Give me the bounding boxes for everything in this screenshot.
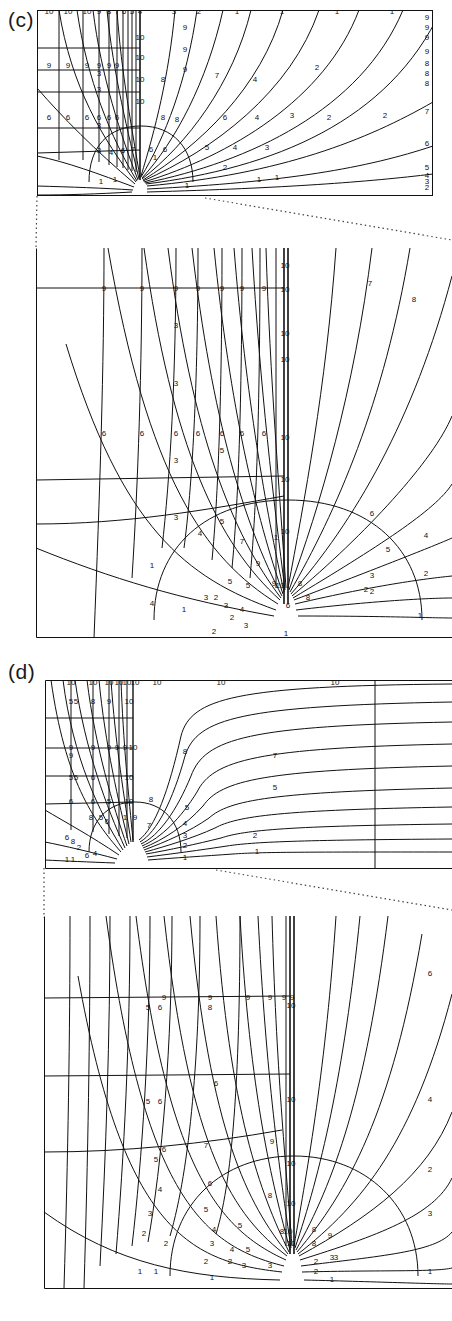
svg-text:5: 5 bbox=[154, 1155, 159, 1164]
svg-text:8: 8 bbox=[107, 10, 112, 16]
svg-text:1: 1 bbox=[418, 611, 423, 620]
svg-text:10: 10 bbox=[281, 433, 290, 442]
svg-text:6: 6 bbox=[69, 797, 74, 806]
svg-text:8: 8 bbox=[425, 69, 430, 78]
svg-text:6: 6 bbox=[425, 139, 430, 148]
svg-text:3: 3 bbox=[172, 10, 177, 16]
svg-text:2: 2 bbox=[204, 1257, 209, 1266]
svg-text:9: 9 bbox=[220, 284, 225, 293]
svg-text:8: 8 bbox=[161, 75, 166, 84]
svg-text:5: 5 bbox=[130, 10, 135, 16]
svg-text:9: 9 bbox=[133, 813, 138, 822]
svg-text:2: 2 bbox=[315, 63, 320, 72]
svg-text:3: 3 bbox=[183, 831, 188, 840]
svg-text:6: 6 bbox=[196, 429, 201, 438]
svg-text:5: 5 bbox=[220, 446, 225, 455]
svg-text:9: 9 bbox=[208, 993, 213, 1002]
svg-text:9: 9 bbox=[328, 1231, 333, 1240]
svg-text:5: 5 bbox=[220, 517, 225, 526]
svg-text:10: 10 bbox=[83, 10, 92, 16]
svg-text:1: 1 bbox=[185, 181, 190, 190]
svg-text:9: 9 bbox=[107, 697, 112, 706]
svg-text:1: 1 bbox=[138, 1267, 143, 1276]
svg-text:9: 9 bbox=[140, 284, 145, 293]
svg-text:3: 3 bbox=[174, 456, 179, 465]
svg-text:9: 9 bbox=[256, 559, 261, 568]
svg-text:5: 5 bbox=[238, 1221, 243, 1230]
svg-text:6: 6 bbox=[107, 113, 112, 122]
svg-text:3: 3 bbox=[265, 143, 270, 152]
svg-text:2: 2 bbox=[142, 1229, 147, 1238]
svg-text:3: 3 bbox=[428, 1209, 433, 1218]
svg-text:5: 5 bbox=[246, 1245, 251, 1254]
svg-text:5: 5 bbox=[204, 1205, 209, 1214]
svg-text:6: 6 bbox=[102, 429, 107, 438]
svg-text:6: 6 bbox=[158, 1003, 163, 1012]
svg-text:2: 2 bbox=[314, 1257, 319, 1266]
svg-text:9: 9 bbox=[183, 23, 188, 32]
svg-text:10: 10 bbox=[136, 75, 145, 84]
svg-text:7: 7 bbox=[425, 107, 430, 116]
svg-text:9: 9 bbox=[282, 993, 287, 1002]
svg-text:9: 9 bbox=[425, 33, 430, 42]
svg-text:10: 10 bbox=[89, 680, 98, 687]
svg-text:2: 2 bbox=[424, 569, 429, 578]
leader-right-c bbox=[205, 198, 452, 240]
svg-text:6: 6 bbox=[262, 429, 267, 438]
svg-text:6: 6 bbox=[66, 113, 71, 122]
svg-text:1: 1 bbox=[284, 629, 289, 638]
svg-text:4: 4 bbox=[253, 75, 258, 84]
svg-text:10: 10 bbox=[125, 697, 134, 706]
svg-text:5: 5 bbox=[246, 581, 251, 590]
svg-text:8: 8 bbox=[208, 1003, 213, 1012]
svg-text:9: 9 bbox=[270, 1137, 275, 1146]
svg-text:9: 9 bbox=[123, 743, 128, 752]
svg-text:1: 1 bbox=[183, 853, 188, 862]
panel-d-detail: 1010 1010 10 99 99 99 56 8 56 6 65 79 46… bbox=[44, 916, 452, 1306]
svg-text:8: 8 bbox=[425, 79, 430, 88]
svg-text:5: 5 bbox=[99, 813, 104, 822]
svg-text:3: 3 bbox=[268, 1261, 273, 1270]
svg-text:4: 4 bbox=[150, 599, 155, 608]
svg-text:7: 7 bbox=[204, 1141, 209, 1150]
panel-c-edge-labels: 99 99 88 87 65 43 2 bbox=[425, 13, 430, 192]
svg-text:8: 8 bbox=[149, 795, 154, 804]
svg-text:5: 5 bbox=[228, 577, 233, 586]
panel-c: 1010 109 87 65 43 21 11 1 99 99 99 1010 … bbox=[37, 10, 433, 196]
svg-text:10: 10 bbox=[136, 33, 145, 42]
svg-text:7: 7 bbox=[147, 821, 152, 830]
svg-text:10: 10 bbox=[281, 355, 290, 364]
svg-text:6: 6 bbox=[85, 113, 90, 122]
svg-text:10: 10 bbox=[281, 261, 290, 270]
svg-text:2: 2 bbox=[253, 831, 258, 840]
svg-text:2: 2 bbox=[228, 1257, 233, 1266]
svg-text:10: 10 bbox=[281, 329, 290, 338]
svg-text:4: 4 bbox=[158, 1185, 163, 1194]
panel-c-detail: 1010 1010 1010 10 99 99 99 9 33 66 66 66… bbox=[36, 248, 452, 638]
contour-figure: (c) bbox=[0, 0, 452, 1321]
svg-text:6: 6 bbox=[214, 1079, 219, 1088]
svg-text:1: 1 bbox=[65, 855, 70, 864]
svg-text:4: 4 bbox=[183, 819, 188, 828]
svg-text:9: 9 bbox=[268, 993, 273, 1002]
svg-text:2: 2 bbox=[314, 1267, 319, 1276]
svg-text:7: 7 bbox=[115, 10, 120, 16]
svg-text:8: 8 bbox=[298, 579, 303, 588]
svg-text:2: 2 bbox=[164, 1239, 169, 1248]
svg-text:2: 2 bbox=[77, 843, 82, 852]
svg-text:5: 5 bbox=[74, 773, 79, 782]
svg-text:9: 9 bbox=[183, 45, 188, 54]
svg-text:6: 6 bbox=[85, 851, 90, 860]
panel-d-detail-plot: 1010 1010 10 99 99 99 56 8 56 6 65 79 46… bbox=[44, 916, 452, 1306]
svg-text:1: 1 bbox=[123, 813, 128, 822]
svg-text:1: 1 bbox=[274, 533, 279, 542]
svg-text:1: 1 bbox=[275, 173, 280, 182]
svg-text:4: 4 bbox=[198, 529, 203, 538]
svg-text:9: 9 bbox=[107, 61, 112, 70]
svg-text:8: 8 bbox=[89, 813, 94, 822]
svg-text:6: 6 bbox=[140, 429, 145, 438]
svg-text:6: 6 bbox=[91, 773, 96, 782]
svg-text:3: 3 bbox=[370, 571, 375, 580]
svg-text:2: 2 bbox=[364, 585, 369, 594]
svg-text:9: 9 bbox=[425, 23, 430, 32]
